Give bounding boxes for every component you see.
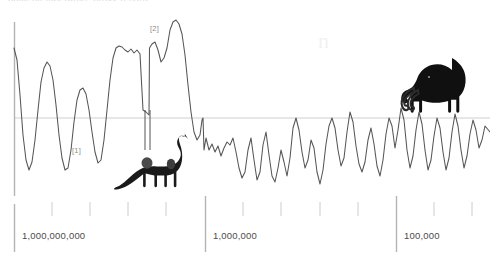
plot-area xyxy=(0,0,490,266)
axis-label-1e5: 100,000 xyxy=(404,230,440,241)
temperature-proxy-curve xyxy=(14,20,490,184)
woolly-mammoth-icon xyxy=(401,58,465,113)
axis-label-1e9: 1,000,000,000 xyxy=(22,230,85,241)
chart-canvas: palaeotemperature proxy record n xyxy=(0,0,490,266)
axis-label-1e6: 1,000,000 xyxy=(213,230,257,241)
axis-minor-ticks xyxy=(52,202,472,216)
annotation-ref-2[interactable]: [2] xyxy=(150,24,159,33)
excursion-drop-lines xyxy=(145,110,150,150)
sauropod-dinosaur-icon xyxy=(114,132,188,189)
annotation-ref-1[interactable]: [1] xyxy=(72,146,81,155)
